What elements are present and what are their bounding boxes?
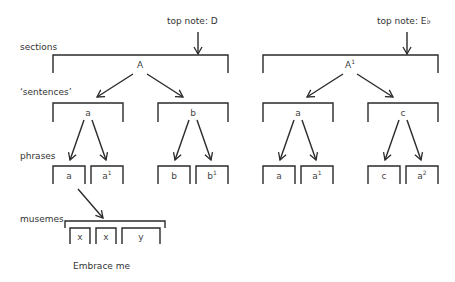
node-sup: 1	[351, 58, 355, 65]
sentence-node-right-2: c	[401, 108, 406, 118]
museme-node-1: x	[77, 232, 82, 242]
node-base: a	[276, 171, 282, 181]
diagram-canvas	[0, 0, 455, 282]
node-sup: 1	[108, 169, 112, 176]
sentence-node-right-1: a	[295, 108, 301, 118]
phrase-node-r4: a2	[417, 171, 426, 181]
section-node-right: A1	[345, 60, 355, 70]
node-base: c	[382, 171, 387, 181]
arrow-a-to-a	[70, 120, 84, 160]
arrow-A-to-b	[147, 74, 183, 97]
node-base: b	[190, 108, 196, 118]
node-sup: 1	[318, 169, 322, 176]
top-note-right: top note: E♭	[377, 16, 431, 26]
arrow-c-to-c	[385, 120, 399, 160]
arrow-A1-to-c	[357, 74, 393, 97]
phrase-node-l4: b1	[207, 171, 217, 181]
sentence-node-left-2: b	[190, 108, 196, 118]
phrase-node-r1: a	[276, 171, 282, 181]
node-base: A	[137, 60, 143, 70]
top-note-left: top note: D	[167, 16, 218, 26]
arrow-A-to-a	[97, 74, 133, 97]
arrow-phrase-to-musemes	[78, 189, 103, 218]
phrase-node-l3: b	[171, 171, 177, 181]
arrow-ra-to-a1	[302, 120, 316, 160]
phrase-node-r3: c	[382, 171, 387, 181]
phrase-node-l1: a	[66, 171, 72, 181]
museme-node-2: x	[103, 232, 108, 242]
sentence-node-left-1: a	[85, 108, 91, 118]
node-base: c	[401, 108, 406, 118]
arrow-a-to-a1	[92, 120, 106, 160]
node-base: b	[171, 171, 177, 181]
node-sup: 1	[213, 169, 217, 176]
arrow-c-to-a2	[407, 120, 421, 160]
museme-node-3: y	[138, 232, 143, 242]
node-sup: 2	[423, 169, 427, 176]
node-base: a	[66, 171, 72, 181]
museme-bracket	[65, 221, 165, 228]
arrow-b-to-b	[175, 120, 189, 160]
arrow-A1-to-a	[307, 74, 343, 97]
caption-embrace-me: Embrace me	[73, 261, 130, 271]
row-label-sentences: ‘sentences’	[20, 87, 72, 97]
node-base: a	[85, 108, 91, 118]
arrow-b-to-b1	[197, 120, 211, 160]
arrow-ra-to-a	[280, 120, 294, 160]
node-base: a	[295, 108, 301, 118]
phrase-node-r2: a1	[312, 171, 321, 181]
row-label-sections: sections	[20, 42, 57, 52]
row-label-musemes: musemes	[20, 214, 64, 224]
phrase-node-l2: a1	[102, 171, 111, 181]
row-label-phrases: phrases	[20, 151, 56, 161]
section-node-left: A	[137, 60, 143, 70]
